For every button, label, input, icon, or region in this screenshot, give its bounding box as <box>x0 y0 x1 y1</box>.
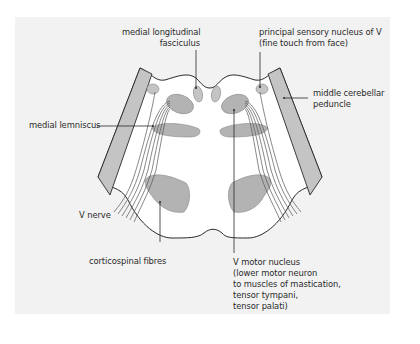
label-principal-sensory-nucleus: principal sensory nucleus of V (fine tou… <box>259 27 382 49</box>
right-principal-sensory-nucleus <box>256 84 268 94</box>
label-middle-cerebellar-peduncle: middle cerebellar peduncle <box>313 88 384 110</box>
pons-cross-section <box>0 0 420 344</box>
label-corticospinal-fibres: corticospinal fibres <box>89 256 166 267</box>
label-medial-lemniscus: medial lemniscus <box>29 120 100 131</box>
label-v-motor-nucleus: V motor nucleus (lower motor neuron to m… <box>233 257 341 312</box>
label-v-nerve: V nerve <box>79 210 111 221</box>
label-medial-longitudinal-fasciculus: medial longitudinal fasciculus <box>122 27 200 49</box>
left-principal-sensory-nucleus <box>147 84 159 94</box>
